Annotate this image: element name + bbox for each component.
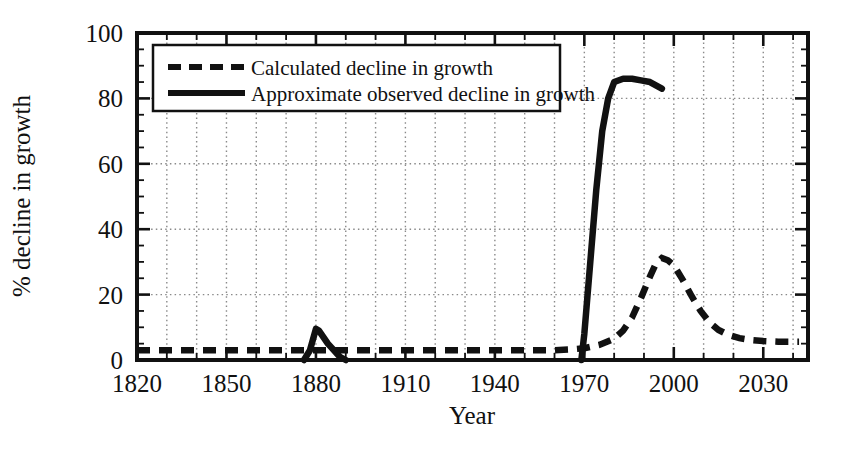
y-tick-label: 20 bbox=[98, 282, 123, 309]
x-tick-label: 1820 bbox=[112, 370, 162, 397]
x-tick-label: 1970 bbox=[559, 370, 609, 397]
x-tick-label: 1880 bbox=[291, 370, 341, 397]
y-tick-label: 60 bbox=[98, 151, 123, 178]
x-tick-label: 1940 bbox=[470, 370, 520, 397]
x-axis-label: Year bbox=[449, 402, 496, 429]
y-tick-label: 100 bbox=[86, 20, 124, 47]
chart-figure: 18201850188019101940197020002030 0204060… bbox=[0, 0, 843, 450]
legend-label-calculated: Calculated decline in growth bbox=[251, 56, 494, 80]
x-tick-label: 2000 bbox=[649, 370, 699, 397]
legend-label-observed: Approximate observed decline in growth bbox=[251, 82, 596, 106]
x-tick-label: 1850 bbox=[201, 370, 251, 397]
y-tick-label: 80 bbox=[98, 85, 123, 112]
x-tick-label: 1910 bbox=[380, 370, 430, 397]
chart-legend: Calculated decline in growth Approximate… bbox=[153, 45, 596, 111]
chart-canvas: 18201850188019101940197020002030 0204060… bbox=[0, 0, 843, 450]
y-axis-label: % decline in growth bbox=[8, 94, 35, 297]
x-tick-label: 2030 bbox=[738, 370, 788, 397]
y-tick-label: 0 bbox=[111, 347, 124, 374]
y-tick-label: 40 bbox=[98, 216, 123, 243]
